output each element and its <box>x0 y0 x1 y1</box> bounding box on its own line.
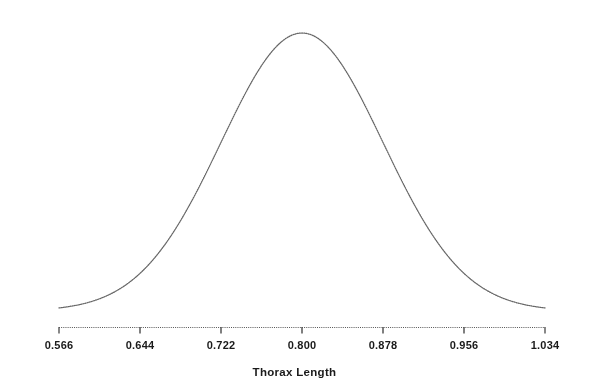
x-axis-title: Thorax Length <box>0 365 589 379</box>
x-axis-tick-label: 0.878 <box>369 339 398 352</box>
x-axis-tick-label: 1.034 <box>531 339 560 352</box>
x-axis-tick-label: 0.956 <box>450 339 479 352</box>
plot-area <box>0 0 589 390</box>
x-axis-tick-label: 0.566 <box>45 339 74 352</box>
x-axis-tick-label: 0.722 <box>207 339 236 352</box>
x-axis-tick-label: 0.800 <box>288 339 317 352</box>
normal-distribution-chart: 0.5660.6440.7220.8000.8780.9561.034 Thor… <box>0 0 589 390</box>
x-axis-tick-label: 0.644 <box>126 339 155 352</box>
bell-curve-line <box>59 33 545 308</box>
